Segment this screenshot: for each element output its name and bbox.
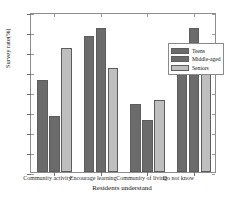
y-tick-right bbox=[212, 134, 215, 135]
y-tick-inner bbox=[31, 14, 34, 15]
bar bbox=[49, 116, 60, 172]
x-tick-top bbox=[101, 14, 102, 17]
bar bbox=[96, 28, 107, 172]
y-tick-right bbox=[212, 154, 215, 155]
x-tick-top bbox=[194, 14, 195, 17]
legend-label-middle-aged: Middle-aged bbox=[192, 56, 221, 62]
bar bbox=[108, 68, 119, 172]
bar bbox=[177, 68, 188, 172]
y-tick-right bbox=[212, 174, 215, 175]
x-tick-label: Community activity bbox=[23, 175, 71, 182]
x-axis-label: Residents understand bbox=[0, 184, 244, 192]
bar bbox=[201, 72, 212, 172]
bar bbox=[84, 36, 95, 172]
y-axis-label: Survey rate(%) bbox=[4, 28, 11, 68]
y-tick-inner bbox=[31, 34, 34, 35]
bar-chart-figure: Survey rate(%) 0510152025303540 Teens Mi… bbox=[0, 0, 244, 203]
plot-area: 0510152025303540 Teens Middle-aged Senio… bbox=[30, 13, 216, 173]
legend-swatch-teens bbox=[171, 48, 189, 54]
bar bbox=[154, 100, 165, 172]
y-tick-inner bbox=[31, 94, 34, 95]
legend-swatch-middle-aged bbox=[171, 56, 189, 62]
x-tick-label: Do not know bbox=[163, 175, 194, 182]
legend-item-seniors: Seniors bbox=[171, 64, 221, 72]
bar bbox=[130, 104, 141, 172]
y-tick-inner bbox=[31, 114, 34, 115]
chart-legend: Teens Middle-aged Seniors bbox=[168, 43, 224, 75]
y-tick-right bbox=[212, 14, 215, 15]
bar bbox=[142, 120, 153, 172]
legend-item-middle-aged: Middle-aged bbox=[171, 55, 221, 63]
y-tick-inner bbox=[31, 154, 34, 155]
y-tick-right bbox=[212, 94, 215, 95]
legend-label-seniors: Seniors bbox=[192, 65, 209, 71]
bar bbox=[61, 48, 72, 172]
y-tick-inner bbox=[31, 74, 34, 75]
x-tick-label: Encourage learning bbox=[70, 175, 117, 182]
y-tick-inner bbox=[31, 134, 34, 135]
bar bbox=[37, 80, 48, 172]
legend-item-teens: Teens bbox=[171, 47, 221, 55]
x-tick-top bbox=[147, 14, 148, 17]
y-tick-right bbox=[212, 114, 215, 115]
x-tick-top bbox=[54, 14, 55, 17]
y-tick-right bbox=[212, 34, 215, 35]
legend-label-teens: Teens bbox=[192, 48, 205, 54]
legend-swatch-seniors bbox=[171, 65, 189, 71]
x-tick-label: Community of living bbox=[116, 175, 167, 182]
y-tick-inner bbox=[31, 54, 34, 55]
